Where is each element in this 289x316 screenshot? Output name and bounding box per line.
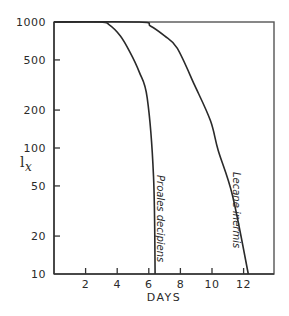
series-line-lecane-inermis (54, 22, 248, 274)
x-tick-label: 4 (113, 278, 121, 291)
series-label-lecane-inermis: Lecane inermis (231, 172, 242, 248)
y-axis-title: l x (20, 154, 32, 174)
x-tick-label: 10 (205, 278, 220, 291)
x-tick-label: 12 (236, 278, 251, 291)
y-tick-label: 1000 (16, 16, 46, 29)
x-axis-title: DAYS (147, 291, 182, 304)
x-tick-label: 2 (82, 278, 90, 291)
y-tick-label: 100 (24, 142, 47, 155)
series-label-proales-decipiens: Proales decipiens (155, 175, 166, 262)
y-axis-title-subscript: x (25, 160, 32, 174)
series-line-proales-decipiens (54, 22, 155, 274)
y-tick-label: 10 (31, 268, 46, 281)
y-tick-label: 20 (31, 230, 46, 243)
y-tick-label: 50 (31, 180, 46, 193)
x-tick-label: 8 (177, 278, 185, 291)
y-tick-label: 200 (24, 104, 47, 117)
x-tick-label: 6 (145, 278, 153, 291)
y-tick-label: 500 (24, 54, 47, 67)
survivorship-chart: 1000500200100502010 24681012 DAYS l x Pr… (0, 0, 289, 316)
plot-area (54, 22, 248, 274)
x-axis: 24681012 (82, 268, 251, 291)
